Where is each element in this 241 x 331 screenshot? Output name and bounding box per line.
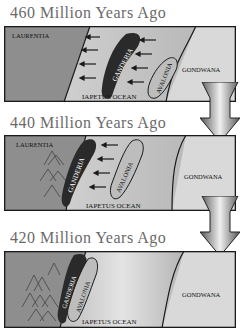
panel-2-title: 440 Million Years Ago [10, 114, 166, 132]
panel-1-title: 460 Million Years Ago [10, 4, 166, 22]
label-iapetus-ocean: IAPETUS OCEAN [86, 202, 141, 210]
label-gondwana: GONDWANA [182, 66, 221, 73]
label-iapetus-ocean: IAPETUS OCEAN [82, 318, 137, 326]
label-laurentia: LAURENTIA [12, 32, 49, 39]
label-iapetus-ocean: IAPETUS OCEAN [82, 93, 137, 101]
label-gondwana: GONDWANA [184, 173, 223, 180]
label-gondwana: GONDWANA [182, 291, 221, 298]
label-laurentia: LAURENTIA [16, 141, 53, 148]
transition-arrow-down-icon [200, 196, 240, 258]
panel-420-mya: IAPETUS OCEAN GONDWANA GANDERIA AVALONIA [4, 251, 236, 328]
panel-3-title: 420 Million Years Ago [10, 229, 166, 247]
